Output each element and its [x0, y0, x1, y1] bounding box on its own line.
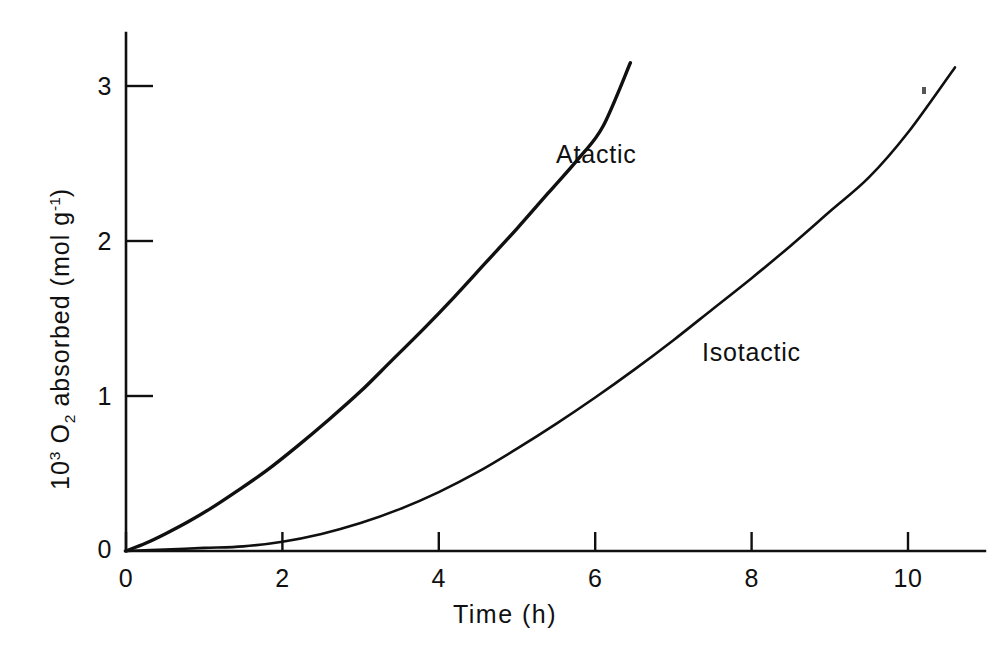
plot-area: [0, 0, 1004, 664]
x-tick-label-10: 10: [894, 564, 923, 593]
x-tick-label-6: 6: [588, 564, 602, 593]
series-label-atactic: Atactic: [556, 140, 637, 169]
y-tick-label-3: 3: [78, 72, 112, 101]
x-axis-ticks: [126, 532, 908, 551]
x-axis-title: Time (h): [453, 600, 557, 629]
x-tick-label-2: 2: [275, 564, 289, 593]
series-line-atactic: [126, 63, 630, 551]
x-tick-label-8: 8: [744, 564, 758, 593]
scan-speck: [922, 87, 926, 94]
series-line-isotactic: [126, 67, 955, 551]
y-axis-title: 103 O2 absorbed (mol g-1): [46, 188, 79, 490]
y-tick-label-1: 1: [78, 382, 112, 411]
x-tick-label-4: 4: [432, 564, 446, 593]
axis-lines: [125, 33, 985, 551]
y-tick-label-0: 0: [78, 535, 112, 564]
chart-figure: 0246810 0123 Time (h) 103 O2 absorbed (m…: [0, 0, 1004, 664]
y-axis-ticks: [126, 86, 153, 396]
x-tick-label-0: 0: [119, 564, 133, 593]
y-tick-label-2: 2: [78, 227, 112, 256]
series-label-isotactic: Isotactic: [702, 338, 801, 367]
